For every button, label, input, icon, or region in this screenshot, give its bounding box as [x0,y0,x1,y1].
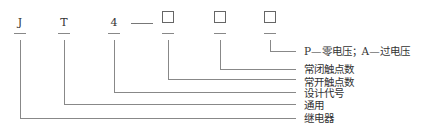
leader-vertical-j [20,40,21,119]
label-design-code: 设计代号 [304,87,344,99]
label-closed-contacts: 常闭触点数 [304,63,354,75]
leader-horizontal-j [20,118,296,119]
separator-dash [131,23,153,24]
leader-horizontal-box3 [270,51,296,52]
code-digit-4: 4 [107,17,121,29]
label-relay: 继电器 [304,112,334,124]
underline-box2 [214,33,226,34]
underline-4 [108,33,120,34]
leader-vertical-box2 [220,40,221,70]
code-box-contacts-open [162,11,174,23]
underline-t [58,33,70,34]
code-letter-j: J [13,17,27,29]
label-voltage-type: P—零电压；A—过电压 [304,45,410,57]
underline-box1 [162,33,174,34]
leader-horizontal-t [64,104,296,105]
label-general-purpose: 通用 [304,99,324,111]
leader-vertical-box1 [168,40,169,80]
code-letter-t: T [57,17,71,29]
code-box-voltage-type [264,11,276,23]
leader-horizontal-4 [114,92,296,93]
underline-j [14,33,26,34]
leader-horizontal-box2 [220,69,296,70]
leader-vertical-4 [114,40,115,93]
leader-horizontal-box1 [168,79,296,80]
leader-vertical-t [64,40,65,105]
underline-box3 [264,33,276,34]
code-box-contacts-closed [214,11,226,23]
